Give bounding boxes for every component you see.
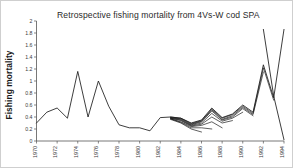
series-line [171, 68, 274, 124]
y-axis-title: Fishing mortality [4, 50, 14, 119]
x-tick-label: 1972 [52, 146, 58, 158]
series-line [37, 29, 285, 130]
x-tick-label: 1988 [217, 146, 223, 158]
x-axis-ticks: 1970197219741976197819801982198419861988… [32, 141, 286, 158]
x-tick-label: 1982 [155, 146, 161, 158]
chart-title: Retrospective fishing mortality from 4Vs… [57, 10, 260, 20]
y-axis-ticks: 00.20.40.60.811.21.41.61.82 [25, 18, 36, 144]
y-tick-label: 0.6 [25, 102, 32, 108]
y-tick-label: 0.4 [25, 114, 32, 120]
y-tick-label: 1.4 [25, 54, 32, 60]
x-tick-label: 1974 [73, 146, 79, 158]
chart-canvas: Retrospective fishing mortality from 4Vs… [1, 1, 293, 168]
series-line [171, 72, 264, 124]
x-tick-label: 1978 [114, 146, 120, 158]
x-tick-label: 1976 [93, 146, 99, 158]
x-tick-label: 1980 [135, 146, 141, 158]
x-tick-label: 1992 [258, 146, 264, 158]
x-tick-label: 1984 [176, 146, 182, 158]
chart-figure: Retrospective fishing mortality from 4Vs… [0, 0, 293, 168]
y-tick-label: 1.2 [25, 66, 32, 72]
y-tick-label: 0.8 [25, 90, 32, 96]
x-tick-label: 1990 [238, 146, 244, 158]
series-lines [37, 29, 285, 139]
y-tick-label: 1.8 [25, 30, 32, 36]
x-tick-label: 1986 [197, 146, 203, 158]
y-tick-label: 1.6 [25, 42, 32, 48]
y-tick-label: 0.2 [25, 126, 32, 132]
x-tick-label: 1970 [32, 146, 38, 158]
y-tick-label: 0 [30, 138, 33, 144]
series-line [263, 29, 284, 139]
y-tick-label: 2 [30, 18, 33, 24]
x-tick-label: 1994 [279, 146, 285, 158]
y-tick-label: 1 [30, 78, 33, 84]
